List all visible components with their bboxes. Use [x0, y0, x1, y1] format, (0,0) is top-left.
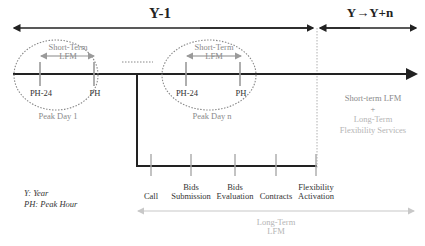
peak-day-1-label: Peak Day 1: [36, 112, 80, 121]
short-term-lfm-text: Short-term LFM: [345, 93, 401, 103]
step-label-bids-evaluation: Bids Evaluation: [213, 183, 257, 201]
long-term-text: Long-Term: [354, 114, 393, 124]
tick-label-ph24-dayn: PH-24: [172, 89, 202, 98]
short-term-label-day1: Short-Term LFM: [42, 43, 94, 61]
step-label-call: Call: [136, 183, 166, 201]
right-panel: Short-term LFM + Long-Term Flexibility S…: [328, 93, 418, 136]
tick-label-ph-dayn: PH: [231, 89, 251, 98]
legend-year: Y: Year: [24, 188, 48, 198]
flexibility-services-text: Flexibility Services: [340, 125, 406, 135]
step-label-flexibility-activation: Flexibility Activation: [294, 183, 338, 201]
short-term-label-dayn: Short-Term LFM: [187, 43, 241, 61]
period-y-minus-1-label: Y-1: [140, 6, 180, 22]
legend-peak-hour: PH: Peak Hour: [24, 199, 77, 209]
long-term-lfm-label: Long-Term LFM: [253, 218, 299, 236]
period-y-plus-n-label: Y→Y+n: [340, 6, 400, 20]
step-label-bids-submission: Bids Submission: [168, 183, 214, 201]
plus-sign: +: [371, 104, 376, 114]
tick-label-ph-day1: PH: [85, 89, 105, 98]
short-term-line2: LFM: [205, 51, 222, 61]
step-label-contracts: Contracts: [256, 183, 296, 201]
legend: Y: Year PH: Peak Hour: [24, 188, 77, 209]
tick-label-ph24-day1: PH-24: [26, 89, 56, 98]
peak-day-n-label: Peak Day n: [188, 112, 236, 121]
short-term-line2: LFM: [59, 51, 76, 61]
